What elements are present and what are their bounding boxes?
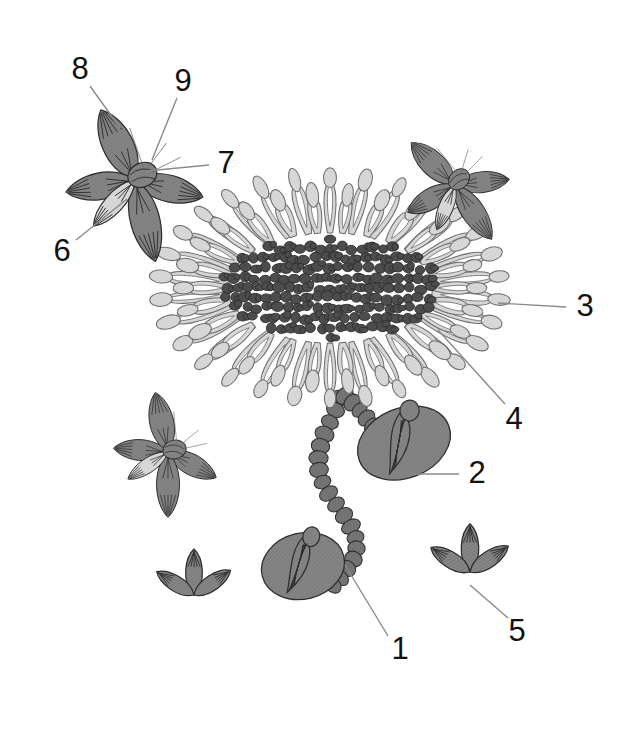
label-6: 6 [53, 233, 70, 268]
label-4: 4 [505, 401, 522, 436]
label-9: 9 [174, 63, 191, 98]
label-7: 7 [217, 145, 234, 180]
figure-root: 123456789 [0, 0, 622, 733]
botanical-diagram-svg: 123456789 [0, 0, 622, 733]
label-5: 5 [508, 613, 525, 648]
label-8: 8 [71, 51, 88, 86]
label-2: 2 [468, 455, 485, 490]
label-3: 3 [576, 288, 593, 323]
label-1: 1 [391, 631, 408, 666]
